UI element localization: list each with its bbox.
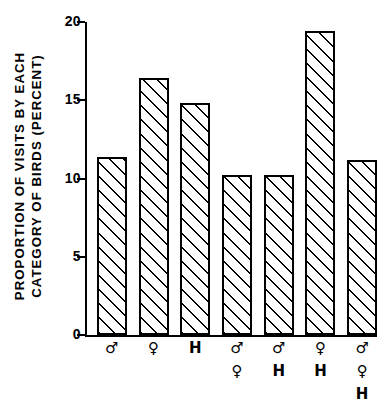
y-axis-label-line-1: PROPORTION OF VISITS BY EACH (11, 52, 28, 300)
x-axis-category-label: ♀ (134, 337, 174, 360)
female-symbol: ♀ (148, 337, 159, 360)
y-axis-label-rotated: PROPORTION OF VISITS BY EACH CATEGORY OF… (0, 0, 56, 352)
male-symbol: ♂ (230, 337, 243, 360)
x-axis-category-label: ♂H (259, 337, 299, 383)
y-axis-tick-label: 0 (73, 326, 81, 342)
female-symbol: ♀ (315, 337, 326, 360)
bar (139, 78, 169, 335)
female-symbol: ♀ (357, 360, 368, 383)
female-symbol: ♀ (232, 360, 243, 383)
bar-chart-figure: PROPORTION OF VISITS BY EACH CATEGORY OF… (0, 0, 385, 417)
y-axis-tick-label: 5 (73, 248, 81, 264)
hybrid-symbol: H (189, 337, 202, 360)
y-axis-tick-label: 20 (65, 13, 81, 29)
x-axis-category-label: ♂♀H (342, 337, 382, 406)
x-axis-category-label: ♂♀ (217, 337, 257, 383)
bar (305, 31, 335, 335)
x-axis-category-label: ♂ (92, 337, 132, 360)
bar-series (85, 22, 377, 335)
hybrid-symbol: H (272, 360, 285, 383)
x-axis-category-label: H (175, 337, 215, 360)
bar (222, 175, 252, 335)
y-axis-label-line-2: CATEGORY OF BIRDS (PERCENT) (28, 54, 45, 298)
plot-area: 05101520 (85, 22, 377, 335)
x-axis-category-label: ♀H (300, 337, 340, 383)
bar (347, 160, 377, 335)
male-symbol: ♂ (272, 337, 285, 360)
male-symbol: ♂ (105, 337, 118, 360)
x-axis-tick-labels: ♂♀H♂♀♂H♀H♂♀H (85, 337, 377, 417)
male-symbol: ♂ (355, 337, 368, 360)
y-axis-tick-label: 15 (65, 91, 81, 107)
bar (180, 103, 210, 335)
hybrid-symbol: H (356, 383, 369, 406)
bar (264, 175, 294, 335)
hybrid-symbol: H (314, 360, 327, 383)
y-axis-label: PROPORTION OF VISITS BY EACH CATEGORY OF… (0, 0, 56, 360)
bar (97, 157, 127, 335)
y-axis-tick-label: 10 (65, 170, 81, 186)
